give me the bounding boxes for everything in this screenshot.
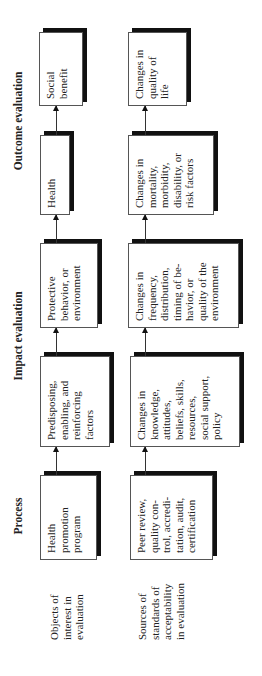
header-outcome-evaluation: Outcome evaluation [12, 36, 24, 206]
box-text: Health promotion program [45, 482, 83, 553]
arrow-icon [56, 447, 57, 475]
header-impact-evaluation: Impact evaluation [12, 246, 24, 426]
row-label-objects: Objects of interest in evaluation [48, 594, 86, 640]
box-text: Peer review, quality con- trol, accredi-… [135, 482, 198, 553]
box-predisposing-factors: Predisposing, enabling, and reinforcing … [40, 356, 110, 447]
box-changes-knowledge: Changes in knowledge, attitudes, beliefs… [130, 356, 240, 447]
header-process: Process [12, 486, 24, 546]
box-text: Predisposing, enabling, and reinforcing … [45, 363, 95, 440]
arrow-icon [56, 215, 57, 243]
box-changes-quality-of-life: Changes in quality of life [128, 32, 187, 106]
box-changes-frequency: Changes in frequency, distribution, timi… [128, 243, 239, 328]
row-label-sources: Sources of standards of acceptability in… [136, 583, 186, 640]
box-text: Changes in quality of life [133, 39, 171, 99]
box-text: Changes in mortality, morbidity, disabil… [133, 142, 196, 208]
arrow-icon [145, 328, 146, 356]
arrow-icon [145, 106, 146, 135]
box-health-promotion-program: Health promotion program [40, 475, 97, 560]
evaluation-framework-diagram: Process Impact evaluation Outcome evalua… [0, 0, 262, 676]
box-social-benefit: Social benefit [39, 32, 83, 106]
box-protective-behavior: Protective behavior, or environment [40, 243, 98, 328]
box-health: Health [40, 135, 70, 215]
box-text: Changes in frequency, distribution, timi… [133, 250, 221, 321]
box-changes-mortality: Changes in mortality, morbidity, disabil… [128, 135, 214, 215]
box-peer-review: Peer review, quality con- trol, accredi-… [130, 475, 213, 560]
arrow-icon [56, 328, 57, 356]
arrow-icon [56, 106, 57, 135]
box-text: Health [45, 142, 58, 208]
arrow-icon [145, 447, 146, 475]
box-text: Social benefit [44, 39, 69, 99]
arrow-icon [145, 215, 146, 243]
box-text: Changes in knowledge, attitudes, beliefs… [135, 363, 223, 440]
box-text: Protective behavior, or environment [45, 250, 83, 321]
